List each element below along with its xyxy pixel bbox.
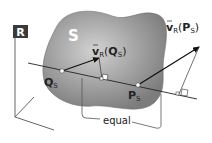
body-label: S — [68, 27, 79, 45]
frame-label: R — [16, 26, 25, 39]
svg-text:vR(QS): vR(QS) — [92, 45, 126, 59]
svg-text:vR(PS): vR(PS) — [166, 21, 199, 35]
vector-q-label: vR(QS) — [92, 45, 126, 59]
right-angle-p — [181, 89, 188, 96]
vector-p-label: vR(PS) — [166, 21, 199, 35]
equal-label: equal — [103, 115, 131, 126]
point-q — [60, 69, 64, 73]
frame-label-box: R — [13, 25, 28, 39]
point-p — [136, 83, 140, 87]
rigid-body-s — [43, 11, 167, 109]
projection-p — [179, 47, 199, 94]
diagram-canvas: R S QS PS vR(QS) vR(PS) equal — [0, 0, 212, 143]
projection-point-q — [100, 77, 103, 80]
projection-point-p — [176, 92, 179, 95]
